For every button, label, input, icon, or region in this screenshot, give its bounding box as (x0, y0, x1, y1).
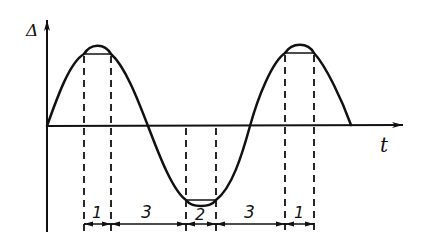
y-axis-label: Δ (25, 20, 38, 40)
segment-label-2: 3 (141, 202, 152, 222)
x-axis (47, 125, 403, 126)
waveform-diagram: Δ t 1 3 2 3 1 (0, 0, 427, 239)
segment-label-5: 1 (294, 203, 304, 222)
x-axis-label: t (380, 133, 389, 157)
segment-label-1: 1 (92, 203, 102, 222)
segment-label-4: 3 (244, 202, 255, 222)
segment-label-3: 2 (195, 205, 205, 224)
